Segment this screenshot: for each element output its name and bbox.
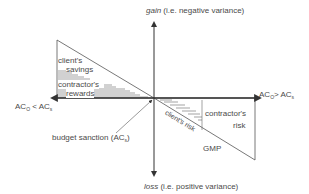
loss-axis-label: loss (i.e. positive variance) — [144, 182, 238, 191]
right-label-ac: AC — [259, 90, 270, 99]
left-label-op: < AC — [30, 102, 50, 111]
right-label-op: > AC — [274, 90, 292, 99]
left-label-sub-s: s — [50, 106, 53, 112]
right-label-sub-s: s — [292, 94, 295, 100]
clients-savings-label-2: savings — [66, 65, 93, 74]
loss-label-rest: (i.e. positive variance) — [158, 182, 238, 191]
budget-sanction-close: ) — [127, 133, 130, 142]
contractors-rewards-label-2: rewards — [66, 89, 94, 98]
gain-label-italic: gain — [146, 6, 161, 15]
loss-label-italic: loss — [144, 182, 158, 191]
right-axis-label: ACO> ACs — [259, 90, 294, 102]
gain-axis-label: gain (i.e. negative variance) — [146, 6, 244, 15]
contractors-rewards-label-1: contractor's — [58, 80, 99, 89]
left-label-ac: AC — [15, 102, 26, 111]
contractors-risk-label-1: contractor's — [205, 109, 246, 118]
gmp-label: GMP — [203, 144, 221, 153]
budget-sanction-label: budget sanction (ACs) — [52, 133, 130, 145]
contractors-risk-label-2: risk — [233, 121, 245, 130]
left-axis-label: ACO < ACs — [15, 102, 52, 114]
budget-sanction-text: budget sanction (AC — [52, 133, 125, 142]
budget-sanction-pointer — [116, 101, 151, 133]
gain-label-rest: (i.e. negative variance) — [161, 6, 244, 15]
clients-savings-label-1: client's — [58, 56, 82, 65]
